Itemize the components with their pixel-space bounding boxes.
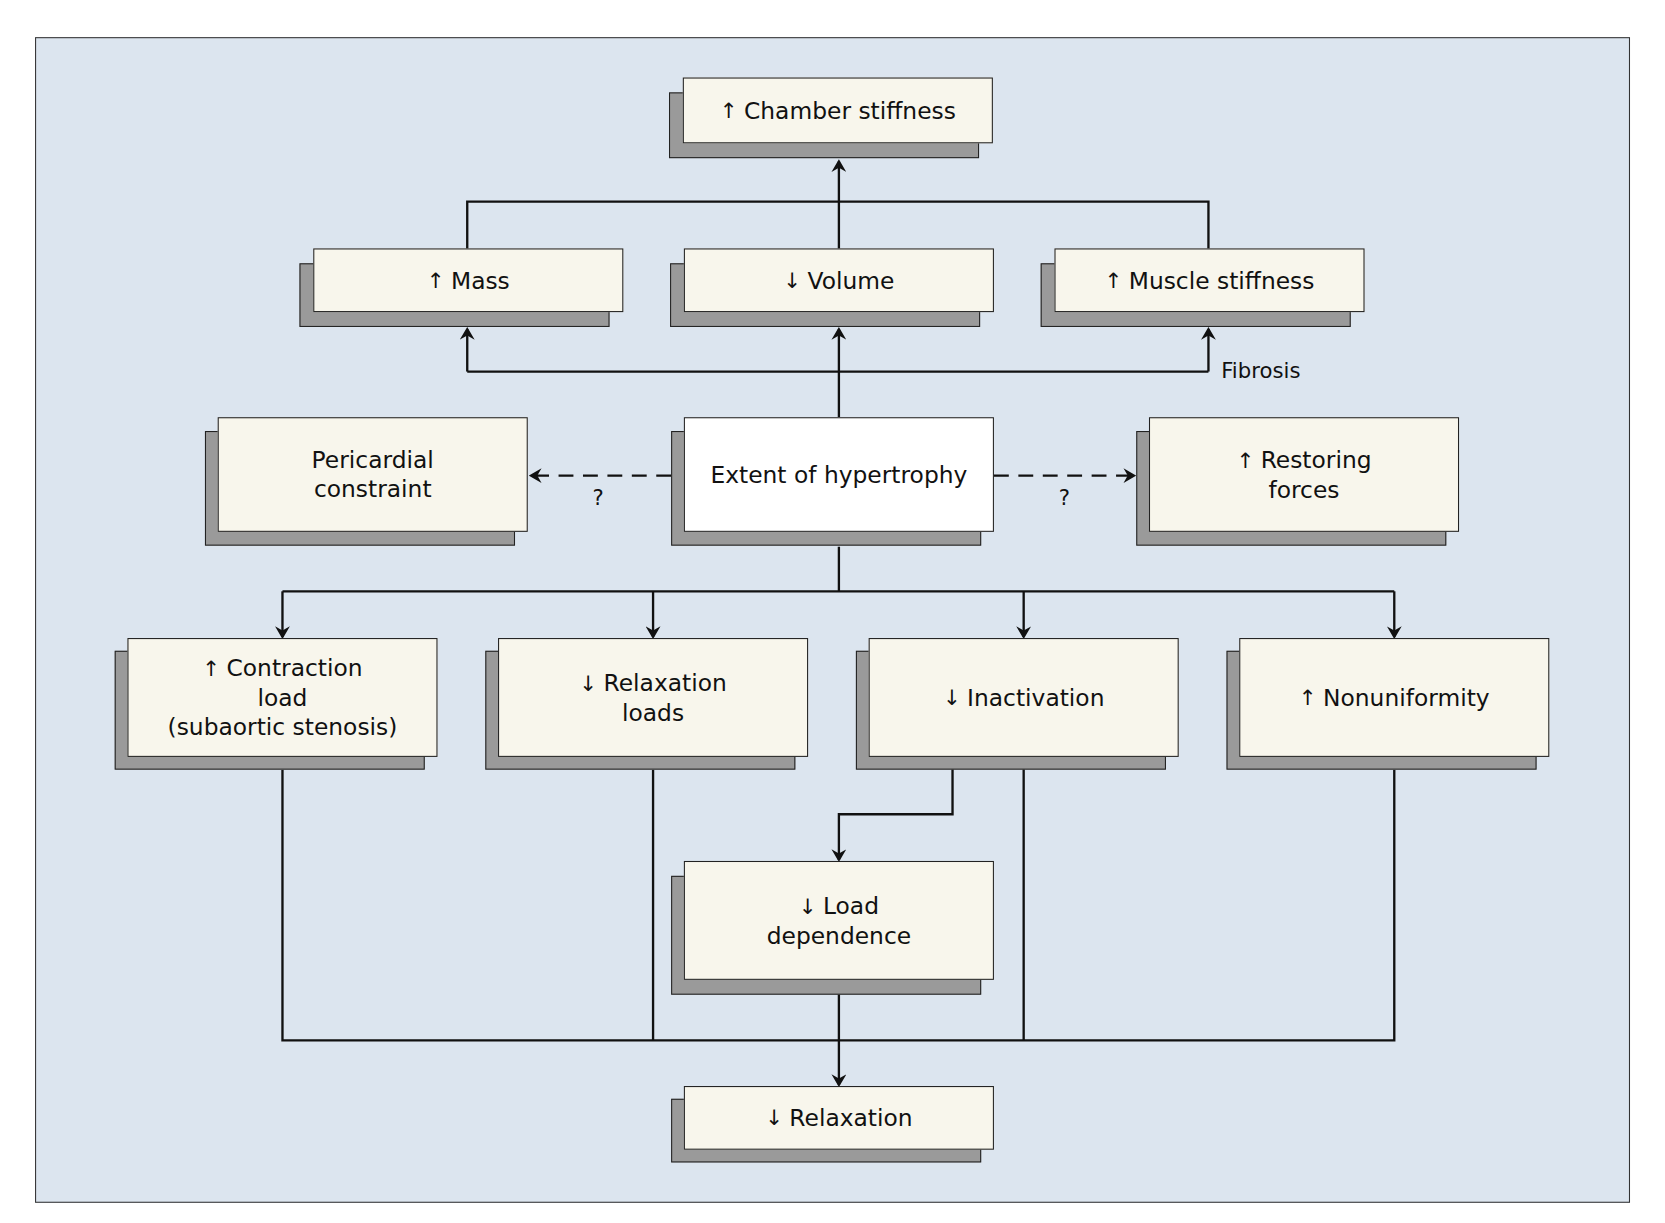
node-label: Inactivation <box>967 683 1104 712</box>
node-label-line3: (subaortic stenosis) <box>168 712 398 741</box>
node-label-line2: dependence <box>767 921 911 950</box>
node-label: Mass <box>451 266 510 295</box>
increase-arrow-icon: ↑ <box>1299 683 1317 712</box>
node-label: Nonuniformity <box>1323 683 1490 712</box>
increase-arrow-icon: ↑ <box>202 656 220 681</box>
node-label: Chamber stiffness <box>744 96 956 125</box>
decrease-arrow-icon: ↓ <box>765 1104 783 1133</box>
node-label-line1: Pericardial <box>312 446 434 475</box>
decrease-arrow-icon: ↓ <box>943 683 961 712</box>
increase-arrow-icon: ↑ <box>1236 447 1254 472</box>
node-label-line1: Relaxation <box>604 669 727 696</box>
connector-lines <box>0 0 1665 1223</box>
edge-label-fibrosis: Fibrosis <box>1221 358 1300 383</box>
increase-arrow-icon: ↑ <box>1105 266 1123 295</box>
increase-arrow-icon: ↑ <box>427 266 445 295</box>
node-label: Extent of hypertrophy <box>710 460 967 489</box>
node-label-line2: forces <box>1269 475 1340 504</box>
increase-arrow-icon: ↑ <box>720 96 738 125</box>
edge-label-question-left: ? <box>593 485 604 510</box>
node-label: Relaxation <box>789 1104 912 1133</box>
node-label: Muscle stiffness <box>1129 266 1315 295</box>
decrease-arrow-icon: ↓ <box>579 670 597 695</box>
edge-label-question-right: ? <box>1059 485 1070 510</box>
node-label-line1: Restoring <box>1261 446 1372 473</box>
decrease-arrow-icon: ↓ <box>799 893 817 918</box>
node-label: Volume <box>808 266 895 295</box>
node-label-line1: Load <box>823 892 879 919</box>
node-label-line2: load <box>257 684 307 713</box>
node-label-line1: Contraction <box>226 655 362 682</box>
decrease-arrow-icon: ↓ <box>783 266 801 295</box>
node-label-line2: loads <box>622 698 684 727</box>
node-label-line2: constraint <box>314 475 432 504</box>
diagram-stage: ↑ Chamber stiffness ↑ Mass ↓ Volume ↑ Mu… <box>0 0 1665 1223</box>
